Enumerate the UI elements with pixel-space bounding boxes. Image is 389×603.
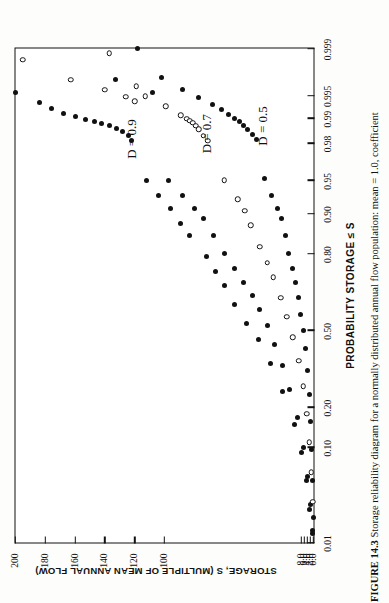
data-point (163, 103, 169, 109)
data-point (131, 98, 137, 104)
y-axis-tick (44, 536, 45, 543)
data-point (133, 83, 139, 89)
x-axis-tick (307, 212, 314, 213)
x-axis-tick-label: 0.01 (322, 535, 332, 552)
data-point (232, 302, 237, 307)
data-point (142, 93, 148, 99)
y-axis-tick-label: 160 (69, 553, 79, 567)
figure-caption-text: FIGURE 14.3 Storage reliability diagram … (369, 2, 380, 602)
y-axis-tick (163, 536, 164, 543)
rotated-figure-wrapper: D = 0.9D = 0.7D = 0.5 PROBABILITY STORAG… (0, 0, 389, 603)
data-point (212, 269, 217, 274)
data-point (257, 307, 262, 312)
data-point (236, 119, 241, 124)
y-axis-tick (306, 536, 307, 543)
data-point (242, 208, 248, 214)
data-point (179, 193, 184, 198)
y-axis-tick (309, 536, 310, 543)
y-axis-tick-label: 140 (98, 553, 108, 567)
x-axis-tick-label: 0.999 (322, 38, 332, 59)
data-point (167, 205, 172, 210)
x-axis-tick-label: 0.50 (322, 323, 332, 340)
data-point (226, 112, 231, 117)
data-point (261, 176, 266, 181)
data-point (48, 106, 53, 111)
data-point (144, 177, 149, 182)
data-point (308, 418, 313, 423)
y-axis-tick-label: 100 (158, 553, 168, 567)
data-point (211, 233, 216, 238)
data-point (67, 76, 73, 82)
data-point (221, 282, 226, 287)
data-point (255, 337, 260, 342)
data-point (300, 327, 305, 332)
x-axis-tick-label: 0.80 (322, 246, 332, 263)
data-point (232, 115, 237, 120)
x-axis-tick-label: 0.10 (322, 439, 332, 456)
data-point (159, 75, 164, 80)
y-axis-tick (133, 536, 134, 543)
y-axis-tick-label: 180 (39, 553, 49, 567)
chart-figure: D = 0.9D = 0.7D = 0.5 PROBABILITY STORAG… (0, 0, 389, 603)
data-point (298, 311, 303, 316)
data-point (203, 254, 208, 259)
data-point (279, 362, 284, 367)
y-axis-tick (300, 536, 301, 543)
data-point (91, 118, 96, 123)
x-axis-tick (307, 252, 314, 253)
figure-caption-body: Storage reliability diagram for a normal… (369, 112, 380, 537)
data-point (264, 323, 269, 328)
data-point (302, 346, 307, 351)
data-point (277, 294, 283, 300)
data-point (257, 244, 263, 250)
data-point (150, 89, 155, 94)
data-point (249, 292, 254, 297)
data-point (294, 414, 299, 419)
series-annotation: D = 0.9 (123, 119, 139, 158)
data-point (112, 77, 117, 82)
x-axis-tick-label: 0.20 (322, 399, 332, 416)
y-axis-tick-label: 8.0 (295, 553, 305, 565)
data-point (240, 280, 245, 285)
series-annotation: D = 0.7 (198, 113, 214, 152)
data-point (309, 447, 314, 452)
data-point (106, 123, 111, 128)
x-axis-tick-label: 0.95 (322, 173, 332, 190)
data-point (102, 87, 108, 93)
x-axis-tick (307, 179, 314, 180)
data-point (295, 357, 301, 363)
data-point (296, 295, 301, 300)
x-axis-tick (307, 142, 314, 143)
figure-caption-label: FIGURE 14.3 (369, 540, 380, 602)
data-point (282, 233, 287, 238)
data-point (279, 389, 284, 394)
data-point (291, 422, 296, 427)
data-point (83, 116, 88, 121)
y-axis-title: STORAGE, S (MULTIPLE OF MEAN ANNUAL FLOW… (6, 566, 306, 577)
data-point (287, 386, 292, 391)
data-point (221, 177, 227, 183)
data-point (232, 266, 237, 271)
data-point (114, 125, 119, 130)
data-point (308, 469, 314, 475)
x-axis-tick-label: 0.98 (322, 135, 332, 152)
data-point (300, 383, 306, 389)
y-axis-tick (312, 536, 313, 543)
data-point (123, 93, 129, 99)
data-point (299, 450, 304, 455)
data-point (309, 499, 315, 505)
data-point (270, 274, 276, 280)
x-axis-tick-label: 0.90 (322, 206, 332, 223)
data-point (300, 444, 305, 449)
data-point (218, 107, 223, 112)
data-point (178, 220, 183, 225)
data-point (191, 205, 196, 210)
y-axis-tick (74, 536, 75, 543)
data-point (245, 126, 250, 131)
y-axis-tick (14, 536, 15, 543)
data-point (221, 251, 226, 256)
x-axis-tick (307, 94, 314, 95)
data-point (60, 110, 65, 115)
x-axis-tick-label: 0.99 (322, 110, 332, 127)
data-point (264, 260, 270, 266)
